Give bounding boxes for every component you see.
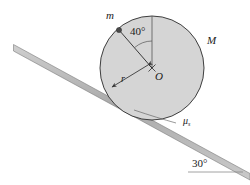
friction-subscript: s: [188, 121, 191, 127]
label-big-mass: M: [206, 34, 217, 46]
label-wheel-angle: 40°: [130, 25, 145, 37]
label-small-mass: m: [106, 9, 114, 21]
label-friction-coefficient: μs: [182, 115, 191, 127]
point-mass-marker: [116, 27, 121, 32]
physics-diagram: m 40° M O r μs 30°: [0, 0, 250, 185]
label-incline-angle: 30°: [192, 157, 207, 169]
